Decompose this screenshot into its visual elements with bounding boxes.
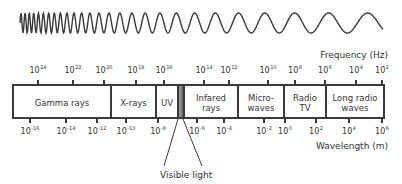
visible-light-label: Visible light: [160, 170, 212, 180]
visible-light-pointer: [0, 0, 402, 184]
